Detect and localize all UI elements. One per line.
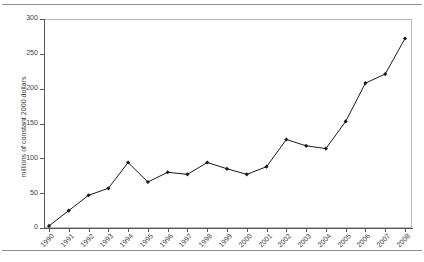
x-axis-tick [267, 228, 268, 232]
x-axis-tick [405, 228, 406, 232]
x-axis-tick [69, 228, 70, 232]
figure-container: 050100150200250300 199019911992199319941… [0, 0, 424, 262]
y-axis-tick [40, 193, 45, 194]
x-axis-tick [168, 228, 169, 232]
x-axis-tick [89, 228, 90, 232]
series-markers [47, 36, 407, 228]
x-axis-tick [49, 228, 50, 232]
x-axis-tick [385, 228, 386, 232]
x-axis-tick [326, 228, 327, 232]
data-point [225, 167, 229, 171]
y-axis-tick [40, 158, 45, 159]
x-axis-tick [207, 228, 208, 232]
x-axis-tick [227, 228, 228, 232]
series-line [49, 39, 405, 226]
y-axis-tick [40, 89, 45, 90]
y-axis-tick [40, 54, 45, 55]
data-point [245, 172, 249, 176]
x-axis-tick [108, 228, 109, 232]
data-point [363, 81, 367, 85]
x-axis-tick [286, 228, 287, 232]
data-point [166, 170, 170, 174]
data-point [185, 172, 189, 176]
data-point [383, 72, 387, 76]
data-point [403, 36, 407, 40]
x-axis-tick [247, 228, 248, 232]
line-chart-series [44, 19, 412, 228]
bottom-divider-rule [2, 250, 422, 251]
data-point [205, 160, 209, 164]
y-axis-title-container: millions of constant 2000 dollars [9, 15, 19, 230]
x-axis-tick [346, 228, 347, 232]
y-axis-tick [40, 228, 45, 229]
data-point [304, 144, 308, 148]
x-axis-tick [306, 228, 307, 232]
x-axis-tick [128, 228, 129, 232]
y-axis-title: millions of constant 2000 dollars [20, 42, 28, 212]
y-axis-tick [40, 19, 45, 20]
x-axis-tick [187, 228, 188, 232]
y-axis-tick [40, 124, 45, 125]
x-axis-tick [148, 228, 149, 232]
x-axis-tick [365, 228, 366, 232]
